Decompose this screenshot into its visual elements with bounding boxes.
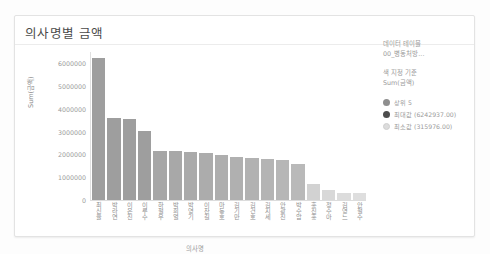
- x-axis-tick-label: 김지세: [261, 202, 274, 244]
- x-axis-tick-labels: 최신율박라연이은진이루수하철우박희열박영기이찬길마동호김기만김건호김지세안광진박…: [92, 202, 366, 244]
- x-axis-tick-label: 마동호: [215, 202, 228, 244]
- color-by-value[interactable]: Sum(금액): [383, 79, 469, 89]
- x-axis-tick-label: 박라연: [107, 202, 120, 244]
- y-axis-tick-label: 3000000: [58, 128, 86, 135]
- x-axis-tick-label: 이은진: [123, 202, 136, 244]
- bar[interactable]: [307, 184, 320, 200]
- legend-items: 상위 5최대값 (6242937.00)최소값 (315976.00): [383, 98, 469, 131]
- y-axis-tick-label: 6000000: [58, 60, 86, 67]
- x-axis-tick-label: 최신율: [92, 202, 105, 244]
- data-table-value[interactable]: 00_병동처방...: [383, 50, 469, 60]
- legend-panel: 데이터 테이블 00_병동처방... 색 지정 기준 Sum(금액) 상위 5최…: [383, 40, 469, 140]
- x-axis-tick-label: 김건호: [245, 202, 258, 244]
- bar[interactable]: [353, 193, 366, 200]
- x-axis-tick-label: 김영느: [337, 202, 350, 244]
- bar-column[interactable]: [245, 52, 258, 200]
- bar[interactable]: [92, 58, 105, 200]
- bar-column[interactable]: [169, 52, 182, 200]
- x-axis-tick-label: 하철우: [153, 202, 166, 244]
- x-axis-tick-label: 박수암: [291, 202, 304, 244]
- legend-item-label: 최소값 (315976.00): [394, 122, 452, 131]
- data-table-block: 데이터 테이블 00_병동처방...: [383, 40, 469, 60]
- x-axis-title: 의사명: [23, 244, 367, 253]
- legend-item-label: 상위 5: [394, 98, 412, 107]
- data-table-label: 데이터 테이블: [383, 40, 469, 50]
- bar[interactable]: [245, 158, 258, 200]
- bar[interactable]: [199, 153, 212, 200]
- bar[interactable]: [291, 164, 304, 200]
- y-axis-tick-label: 4000000: [58, 105, 86, 112]
- bar-column[interactable]: [261, 52, 274, 200]
- bar[interactable]: [337, 193, 350, 201]
- x-axis-line: [90, 200, 366, 201]
- legend-item[interactable]: 최대값 (6242937.00): [383, 110, 469, 119]
- legend-item[interactable]: 최소값 (315976.00): [383, 122, 469, 131]
- legend-item[interactable]: 상위 5: [383, 98, 469, 107]
- bar-column[interactable]: [184, 52, 197, 200]
- bar-column[interactable]: [230, 52, 243, 200]
- page-title: 의사명별 금액: [25, 23, 104, 42]
- y-axis-title: Sum(금액): [25, 76, 35, 108]
- bar-column[interactable]: [123, 52, 136, 200]
- y-axis-tick-label: 2000000: [58, 151, 86, 158]
- y-axis-ticks: 6000000500000040000003000000200000010000…: [37, 48, 89, 200]
- x-axis-tick-label: 이루수: [138, 202, 151, 244]
- bar-column[interactable]: [291, 52, 304, 200]
- bar[interactable]: [322, 190, 335, 200]
- dark-gray-circle-icon: [383, 111, 390, 118]
- x-axis-tick-label: 정수아: [322, 202, 335, 244]
- legend-item-label: 최대값 (6242937.00): [394, 110, 456, 119]
- x-axis-tick-label: 박희열: [169, 202, 182, 244]
- bar[interactable]: [230, 157, 243, 200]
- light-gray-circle-icon: [383, 123, 390, 130]
- bar[interactable]: [215, 155, 228, 200]
- x-axis-tick-label: 홍진홍: [307, 202, 320, 244]
- bar-column[interactable]: [92, 52, 105, 200]
- bar[interactable]: [138, 131, 151, 200]
- bar-column[interactable]: [107, 52, 120, 200]
- bar[interactable]: [153, 151, 166, 200]
- bar-column[interactable]: [322, 52, 335, 200]
- x-axis-tick-label: 김기만: [230, 202, 243, 244]
- mid-gray-circle-icon: [383, 99, 390, 106]
- bar-column[interactable]: [215, 52, 228, 200]
- bar[interactable]: [107, 118, 120, 200]
- bar-column[interactable]: [276, 52, 289, 200]
- color-by-label: 색 지정 기준: [383, 69, 469, 79]
- bar-column[interactable]: [353, 52, 366, 200]
- bar-column[interactable]: [199, 52, 212, 200]
- chart-plot-area: Sum(금액) 60000005000000400000030000002000…: [23, 48, 367, 230]
- y-axis-line: [90, 52, 91, 200]
- screen-root: 의사명별 금액 Sum(금액) 600000050000004000000300…: [0, 0, 490, 254]
- bar[interactable]: [276, 160, 289, 200]
- bar-column[interactable]: [337, 52, 350, 200]
- bar[interactable]: [261, 159, 274, 200]
- bar-column[interactable]: [153, 52, 166, 200]
- chart-card: 의사명별 금액 Sum(금액) 600000050000004000000300…: [14, 15, 475, 237]
- x-axis-tick-label: 안광진: [276, 202, 289, 244]
- y-axis-tick-label: 0: [82, 197, 86, 204]
- bar-series: [92, 52, 366, 200]
- bar[interactable]: [169, 151, 182, 200]
- bar-column[interactable]: [138, 52, 151, 200]
- bar[interactable]: [184, 152, 197, 200]
- x-axis-tick-label: 이찬길: [199, 202, 212, 244]
- bar-column[interactable]: [307, 52, 320, 200]
- y-axis-tick-label: 5000000: [58, 83, 86, 90]
- color-by-block: 색 지정 기준 Sum(금액): [383, 69, 469, 89]
- x-axis-tick-label: 안철수: [353, 202, 366, 244]
- x-axis-tick-label: 박영기: [184, 202, 197, 244]
- bar[interactable]: [123, 119, 136, 200]
- y-axis-tick-label: 1000000: [58, 174, 86, 181]
